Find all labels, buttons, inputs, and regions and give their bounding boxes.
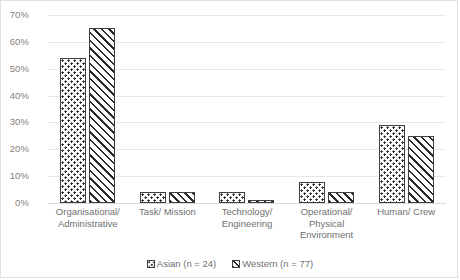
x-axis-label: Human/ Crew <box>366 206 446 241</box>
bar <box>379 125 405 203</box>
x-axis-label: Technology/ Engineering <box>207 206 287 241</box>
gridline-0 <box>48 203 446 204</box>
bar <box>140 192 166 203</box>
bar-group <box>366 15 446 203</box>
chart-legend: Asian (n = 24)Western (n = 77) <box>1 259 459 269</box>
bar <box>219 192 245 203</box>
legend-swatch-icon <box>147 260 155 268</box>
bar-chart: 70%60%50%40%30%20%10%0% Organisational/ … <box>0 0 458 278</box>
bar <box>299 182 325 203</box>
y-axis-tick-10: 10% <box>0 171 29 181</box>
bar-group <box>207 15 287 203</box>
x-axis-category-labels: Organisational/ AdministrativeTask/ Miss… <box>48 206 446 241</box>
bar <box>328 192 354 203</box>
legend-label: Western (n = 77) <box>242 259 313 269</box>
bar <box>248 200 274 203</box>
legend-swatch-icon <box>232 260 240 268</box>
y-axis-tick-30: 30% <box>0 117 29 127</box>
bar-group <box>287 15 367 203</box>
x-axis-label: Task/ Mission <box>128 206 208 241</box>
y-axis-tick-60: 60% <box>0 37 29 47</box>
bar <box>408 136 434 203</box>
legend-label: Asian (n = 24) <box>157 259 216 269</box>
bar-group <box>128 15 208 203</box>
y-axis-tick-0: 0% <box>0 198 29 208</box>
y-axis-tick-40: 40% <box>0 91 29 101</box>
x-axis-label: Operational/ Physical Environment <box>287 206 367 241</box>
bar <box>60 58 86 203</box>
y-axis-tick-20: 20% <box>0 144 29 154</box>
bar <box>89 28 115 203</box>
bar-group <box>48 15 128 203</box>
bar <box>169 192 195 203</box>
x-axis-label: Organisational/ Administrative <box>48 206 128 241</box>
y-axis-tick-50: 50% <box>0 64 29 74</box>
legend-item[interactable]: Asian (n = 24) <box>147 259 216 269</box>
legend-item[interactable]: Western (n = 77) <box>232 259 313 269</box>
y-axis-tick-70: 70% <box>0 10 29 20</box>
plot-area: 70%60%50%40%30%20%10%0% <box>48 15 446 203</box>
bar-groups <box>48 15 446 203</box>
